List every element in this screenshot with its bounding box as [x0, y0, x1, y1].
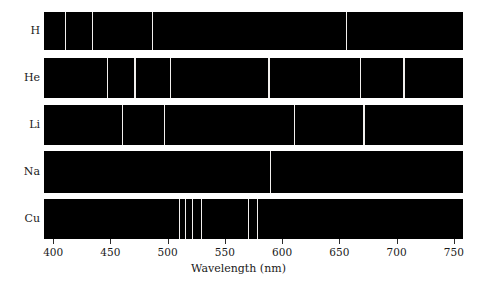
x-tick: [110, 239, 111, 244]
emission-line: [65, 12, 66, 50]
x-tick-label: 700: [377, 246, 417, 258]
x-tick: [225, 239, 226, 244]
x-tick: [282, 239, 283, 244]
emission-line: [170, 58, 171, 98]
emission-line: [92, 12, 93, 50]
emission-line: [179, 199, 180, 239]
x-tick-label: 450: [90, 246, 130, 258]
spectrum-row-label-na: Na: [0, 165, 40, 178]
emission-line: [270, 151, 271, 193]
spectrum-band-he: [44, 58, 463, 98]
spectrum-row-label-cu: Cu: [0, 212, 40, 225]
emission-line: [248, 199, 249, 239]
x-tick: [454, 239, 455, 244]
spectrum-row-label-h: H: [0, 24, 40, 37]
emission-line: [268, 58, 269, 98]
emission-line: [346, 12, 347, 50]
x-tick: [168, 239, 169, 244]
x-tick: [397, 239, 398, 244]
emission-line: [294, 105, 295, 145]
spectrum-band-cu: [44, 199, 463, 239]
emission-line: [152, 12, 153, 50]
x-tick: [339, 239, 340, 244]
x-axis-label: Wavelength (nm): [0, 262, 477, 275]
emission-line: [107, 58, 108, 98]
emission-line: [192, 199, 193, 239]
spectrum-band-li: [44, 105, 463, 145]
x-tick: [53, 239, 54, 244]
spectrum-row-label-li: Li: [0, 118, 40, 131]
emission-line: [360, 58, 361, 98]
emission-line: [122, 105, 123, 145]
spectrum-band-h: [44, 12, 463, 50]
emission-line: [363, 105, 364, 145]
emission-line: [403, 58, 404, 98]
x-tick-label: 750: [434, 246, 474, 258]
spectrum-band-na: [44, 151, 463, 193]
emission-line: [164, 105, 165, 145]
x-tick-label: 600: [262, 246, 302, 258]
x-tick-label: 550: [205, 246, 245, 258]
x-tick-label: 500: [148, 246, 188, 258]
emission-spectra-figure: HHeLiNaCu 400450500550600650700750 Wavel…: [0, 0, 477, 288]
emission-line: [201, 199, 202, 239]
emission-line: [257, 199, 258, 239]
spectrum-row-label-he: He: [0, 71, 40, 84]
x-tick-label: 650: [319, 246, 359, 258]
emission-line: [185, 199, 186, 239]
x-tick-label: 400: [33, 246, 73, 258]
emission-line: [134, 58, 135, 98]
